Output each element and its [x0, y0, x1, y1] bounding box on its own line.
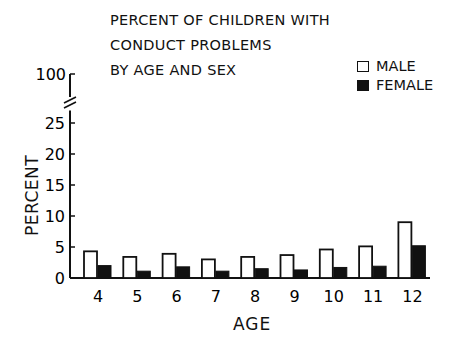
x-tick-label: 8: [250, 287, 260, 306]
x-tick-label: 11: [363, 287, 383, 306]
y-tick-label: 15: [45, 176, 65, 195]
bar-male: [359, 246, 372, 278]
y-tick-label: 100: [35, 65, 66, 84]
x-tick-label: 12: [402, 287, 422, 306]
bar-male: [202, 259, 215, 278]
bar-female: [412, 246, 425, 278]
y-tick-label: 20: [45, 145, 65, 164]
plot-area: 0510152025100456789101112: [0, 0, 457, 337]
x-tick-label: 4: [93, 287, 103, 306]
x-tick-label: 9: [289, 287, 299, 306]
bar-female: [373, 266, 386, 278]
x-tick-label: 5: [132, 287, 142, 306]
bar-female: [334, 267, 347, 278]
bar-female: [98, 266, 111, 278]
y-tick-label: 0: [55, 269, 65, 288]
bar-female: [295, 270, 308, 278]
bar-male: [84, 251, 97, 278]
y-tick-label: 5: [55, 238, 65, 257]
bar-female: [255, 269, 268, 278]
x-tick-label: 7: [211, 287, 221, 306]
x-tick-label: 6: [172, 287, 182, 306]
bar-male: [320, 249, 333, 278]
bar-male: [123, 257, 136, 278]
bar-female: [137, 271, 150, 278]
bar-male: [163, 254, 176, 278]
y-tick-label: 25: [45, 114, 65, 133]
y-tick-label: 10: [45, 207, 65, 226]
bar-male: [398, 222, 411, 278]
bar-male: [281, 255, 294, 278]
bar-female: [216, 271, 229, 278]
x-tick-label: 10: [324, 287, 344, 306]
bar-female: [177, 267, 190, 278]
bar-male: [241, 257, 254, 278]
